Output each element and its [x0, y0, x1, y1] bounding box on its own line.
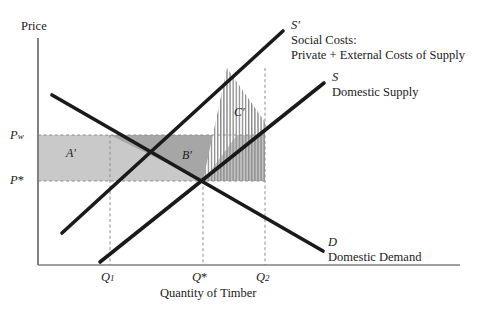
y-tick-pstar: P*: [10, 173, 24, 188]
domestic-supply-label-group: S Domestic Supply: [332, 70, 418, 100]
x-tick-q2-base: Q: [256, 270, 265, 284]
economics-supply-demand-figure: Price Quantity of Timber Pw P* Q1 Q* Q2 …: [0, 0, 486, 318]
x-tick-q2-sub: 2: [265, 273, 270, 283]
domestic-demand-desc: Domestic Demand: [328, 250, 421, 265]
x-tick-q1: Q1: [101, 270, 115, 285]
domestic-supply-symbol: S: [332, 70, 418, 85]
domestic-demand-symbol: D: [328, 235, 421, 250]
x-axis-title: Quantity of Timber: [160, 286, 257, 301]
social-supply-symbol: S′: [291, 18, 465, 33]
x-tick-q2: Q2: [256, 270, 270, 285]
social-supply-desc-line1: Social Costs:: [291, 33, 465, 48]
x-tick-q1-sub: 1: [110, 273, 115, 283]
y-tick-pw-sub: w: [18, 131, 24, 141]
social-supply-label-group: S′ Social Costs: Private + External Cost…: [291, 18, 465, 62]
domestic-supply-desc: Domestic Supply: [332, 85, 418, 100]
y-tick-pstar-star: *: [18, 173, 24, 187]
y-tick-pw-base: P: [10, 128, 18, 142]
region-c-hatch: [203, 68, 265, 181]
x-tick-qstar-base: Q: [192, 270, 201, 284]
domestic-demand-label-group: D Domestic Demand: [328, 235, 421, 265]
x-tick-qstar-star: *: [201, 270, 207, 284]
region-b-label: B′: [182, 148, 192, 162]
y-tick-pw: Pw: [10, 128, 24, 143]
y-tick-pstar-base: P: [10, 173, 18, 187]
social-supply-desc-line2: Private + External Costs of Supply: [291, 48, 465, 63]
x-tick-qstar: Q*: [192, 270, 207, 285]
y-axis-title: Price: [21, 19, 47, 34]
x-tick-q1-base: Q: [101, 270, 110, 284]
region-c-label: C′: [234, 105, 245, 119]
region-a-label: A′: [66, 146, 76, 160]
